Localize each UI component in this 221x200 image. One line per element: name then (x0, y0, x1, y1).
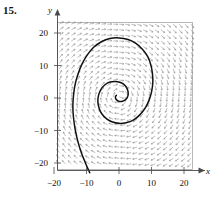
x-tick-label: 20 (180, 178, 190, 188)
y-tick-label: 20 (39, 28, 49, 38)
x-tick-label: 0 (117, 178, 122, 188)
x-tick-label: −20 (47, 178, 62, 188)
figure-container: 15. x y −20−1001020 −20−1001020 (0, 0, 221, 200)
x-axis-label: x (205, 166, 210, 176)
y-tick-label: 10 (39, 61, 49, 71)
y-tick-label: −20 (34, 158, 49, 168)
direction-field-plot: x y −20−1001020 −20−1001020 (0, 0, 221, 200)
y-axis-ticks: −20−1001020 (34, 28, 61, 168)
x-tick-label: 10 (147, 178, 157, 188)
x-axis-arrowhead (199, 168, 206, 174)
x-tick-label: −10 (79, 178, 94, 188)
y-tick-label: −10 (34, 126, 49, 136)
vector-field-arrows (56, 22, 193, 167)
y-tick-label: 0 (44, 93, 49, 103)
x-axis: x (58, 166, 211, 176)
y-axis-arrowhead (55, 9, 61, 16)
y-axis-label: y (47, 5, 52, 15)
